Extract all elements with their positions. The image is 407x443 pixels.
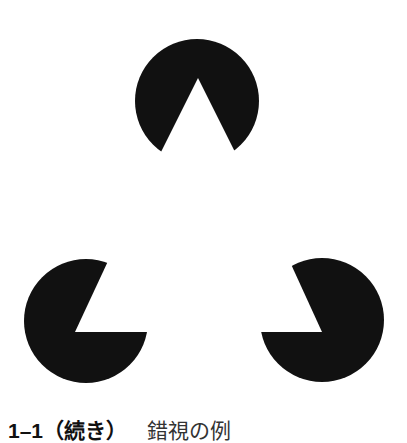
figure-title: 錯視の例 (147, 419, 231, 443)
figure-continued-label: （続き） (43, 419, 127, 443)
pacman-bottom-left (24, 259, 148, 383)
pacman-bottom-right (260, 258, 384, 382)
pacman-top (135, 39, 259, 163)
figure-caption: 1–1（続き）錯視の例 (8, 419, 231, 443)
figure-number: 1–1 (8, 419, 43, 442)
